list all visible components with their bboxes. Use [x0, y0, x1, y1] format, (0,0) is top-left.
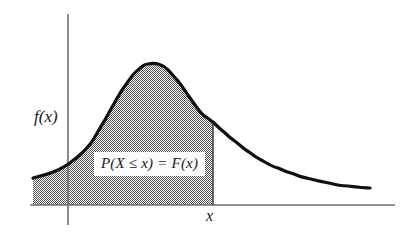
y-axis-label: f(x): [34, 108, 58, 125]
density-function-figure: f(x) x P(X ≤ x) = F(x): [0, 0, 416, 246]
shaded-probability-area: [28, 55, 220, 210]
probability-annotation: P(X ≤ x) = F(x): [94, 152, 205, 176]
x-tick-label: x: [206, 208, 213, 224]
